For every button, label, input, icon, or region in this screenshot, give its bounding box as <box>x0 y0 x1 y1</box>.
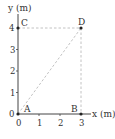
point-a <box>16 112 19 115</box>
point-label-c: C <box>21 18 28 28</box>
dashed-line-ad <box>18 28 81 114</box>
y-tick-label-3: 3 <box>10 45 15 55</box>
x-tick-label-3: 3 <box>79 118 84 128</box>
y-tick-label-2: 2 <box>10 66 15 76</box>
y-tick-label-4: 4 <box>9 23 14 33</box>
y-axis-label: y (m) <box>7 3 32 13</box>
y-tick-label-1: 1 <box>10 88 15 98</box>
x-tick-label-2: 2 <box>58 118 63 128</box>
point-label-b: B <box>71 104 78 114</box>
point-label-d: D <box>78 17 85 27</box>
x-axis-label: x (m) <box>92 109 115 119</box>
coordinate-diagram: y (m) x (m) 0 1 2 3 4 0 1 2 3 A B C D <box>0 0 115 139</box>
x-tick-label-0: 0 <box>16 118 21 128</box>
point-b <box>79 112 82 115</box>
x-tick-label-1: 1 <box>37 118 42 128</box>
point-c <box>16 26 19 29</box>
point-label-a: A <box>23 104 31 114</box>
y-tick-label-0: 0 <box>9 109 14 119</box>
